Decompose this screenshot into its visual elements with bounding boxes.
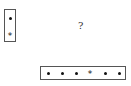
dot-icon: [44, 69, 52, 77]
dot-icon: [6, 14, 14, 22]
asterisk-icon: *: [86, 69, 94, 77]
question-mark: ?: [78, 20, 83, 31]
horizontal-sequence-box: *: [40, 66, 126, 80]
vertical-sequence-box: *: [4, 9, 16, 42]
dot-icon: [101, 69, 109, 77]
dot-icon: [58, 69, 66, 77]
dot-icon: [72, 69, 80, 77]
asterisk-icon: *: [6, 31, 14, 39]
dot-icon: [115, 69, 123, 77]
